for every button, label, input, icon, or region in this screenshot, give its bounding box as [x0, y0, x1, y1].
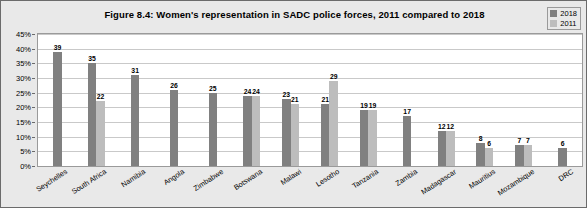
bar-value-label: 17 — [403, 108, 411, 115]
legend-item-2011: 2011 — [550, 19, 577, 28]
y-tick-mark — [32, 151, 35, 152]
legend-swatch-2011 — [550, 20, 557, 27]
bar-2018 — [321, 104, 330, 166]
y-axis: 0%5%10%15%20%25%30%35%40%45% — [1, 33, 35, 167]
y-tick-mark — [32, 49, 35, 50]
bar-2018 — [131, 75, 140, 166]
x-tick-label: Namibia — [120, 167, 147, 189]
bar-2018 — [53, 52, 62, 166]
bar-2011 — [252, 96, 261, 166]
x-tick-label: Seychelles — [35, 167, 70, 194]
y-tick-mark — [32, 78, 35, 79]
bar-2011 — [291, 104, 300, 166]
legend-label-2018: 2018 — [560, 9, 577, 18]
bar-2018 — [282, 99, 291, 166]
y-tick-label: 40% — [16, 44, 31, 53]
bar-value-label: 26 — [170, 82, 178, 89]
bar-value-label: 12 — [446, 123, 454, 130]
x-tick-label: South Africa — [70, 167, 108, 196]
x-tick-label: Zambia — [394, 167, 419, 188]
bar-value-label: 25 — [209, 85, 217, 92]
chart-title: Figure 8.4: Women's representation in SA… — [1, 9, 587, 20]
y-tick-mark — [32, 34, 35, 35]
bar-value-label: 39 — [54, 44, 62, 51]
y-tick-mark — [32, 107, 35, 108]
bar-value-label: 6 — [561, 140, 565, 147]
x-tick-label: Malawi — [279, 167, 303, 187]
bar-value-label: 19 — [360, 102, 368, 109]
bar-2018 — [88, 63, 97, 166]
legend-item-2018: 2018 — [550, 9, 577, 18]
y-tick-mark — [32, 93, 35, 94]
bar-value-label: 24 — [252, 88, 260, 95]
bar-value-label: 31 — [131, 67, 139, 74]
y-tick-mark — [32, 63, 35, 64]
x-tick-label: DRC — [556, 167, 574, 183]
bar-value-label: 21 — [291, 96, 299, 103]
bar-value-label: 19 — [369, 102, 377, 109]
bar-2011 — [329, 81, 338, 166]
x-tick-label: Mauritius — [467, 167, 497, 191]
y-tick-label: 25% — [16, 88, 31, 97]
figure-container: Figure 8.4: Women's representation in SA… — [0, 0, 587, 208]
bar-value-label: 23 — [283, 91, 291, 98]
bar-value-label: 7 — [518, 137, 522, 144]
x-tick-label: Tanzania — [351, 167, 380, 190]
bar-value-label: 7 — [526, 137, 530, 144]
bar-2011 — [368, 110, 377, 166]
bar-2018 — [243, 96, 252, 166]
bar-2011 — [485, 148, 494, 166]
bar-value-label: 24 — [244, 88, 252, 95]
bar-value-label: 6 — [487, 140, 491, 147]
x-tick-label: Madagascar — [419, 167, 458, 196]
y-tick-mark — [32, 137, 35, 138]
bar-2018 — [170, 90, 179, 166]
bar-value-label: 29 — [330, 73, 338, 80]
legend-label-2011: 2011 — [560, 19, 576, 28]
chart-legend: 2018 2011 — [547, 7, 581, 30]
bar-2018 — [403, 116, 412, 166]
bar-value-label: 35 — [88, 55, 96, 62]
x-tick-label: Lesotho — [315, 167, 342, 189]
y-tick-label: 5% — [20, 147, 31, 156]
bars-layer: 393522312625242423212129191917121286776 — [38, 34, 582, 166]
y-tick-label: 30% — [16, 74, 31, 83]
bar-value-label: 12 — [438, 123, 446, 130]
bar-2018 — [515, 145, 524, 166]
bar-2018 — [209, 93, 218, 166]
bar-2011 — [524, 145, 533, 166]
y-tick-label: 20% — [16, 103, 31, 112]
y-tick-label: 15% — [16, 118, 31, 127]
y-tick-mark — [32, 122, 35, 123]
bar-2018 — [476, 143, 485, 166]
x-axis: SeychellesSouth AfricaNamibiaAngolaZimba… — [1, 167, 587, 208]
y-tick-label: 35% — [16, 59, 31, 68]
bar-2011 — [96, 101, 105, 166]
x-tick-label: Botswana — [232, 167, 264, 192]
bar-value-label: 22 — [97, 93, 105, 100]
bar-value-label: 8 — [479, 135, 483, 142]
x-tick-label: Mozambique — [496, 167, 536, 197]
bar-2018 — [558, 148, 567, 166]
y-tick-label: 10% — [16, 132, 31, 141]
legend-swatch-2018 — [550, 10, 557, 17]
bar-2018 — [360, 110, 369, 166]
bar-value-label: 21 — [321, 96, 329, 103]
x-tick-label: Zimbabwe — [192, 167, 225, 193]
bar-2018 — [438, 131, 447, 166]
x-tick-label: Angola — [162, 167, 186, 187]
bar-2011 — [446, 131, 455, 166]
y-tick-label: 45% — [16, 30, 31, 39]
